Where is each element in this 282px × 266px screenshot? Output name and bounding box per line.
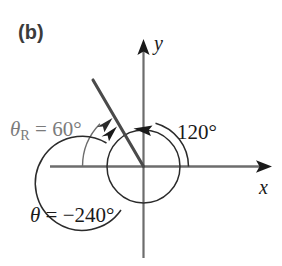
signed-angle-degree-symbol: ° [106, 203, 114, 227]
reference-angle-value: = 60 [30, 117, 73, 141]
angle-diagram-figure: (b) y x 120° θR = 60° θ = −240° [0, 0, 282, 266]
y-axis-label: y [154, 33, 163, 53]
angle-120-label: 120° [177, 122, 217, 143]
reference-angle-label: θR = 60° [10, 119, 82, 142]
reference-angle-theta-symbol: θ [10, 117, 20, 141]
terminal-ray [93, 80, 144, 167]
x-axis-label: x [259, 177, 268, 197]
reference-angle-subscript: R [20, 127, 30, 143]
panel-letter: (b) [18, 22, 44, 42]
reference-angle-arc [83, 124, 101, 167]
signed-angle-label: θ = −240° [30, 205, 114, 226]
signed-angle-theta-symbol: θ [30, 203, 40, 227]
signed-angle-value: = −240 [40, 203, 106, 227]
reference-angle-degree-symbol: ° [73, 117, 81, 141]
